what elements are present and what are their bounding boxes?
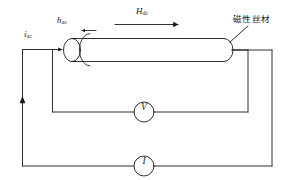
specimen-label: 磁性丝材 (233, 15, 271, 24)
magnetic-wire-cylinder (64, 39, 233, 62)
current-direction-arrowhead (20, 96, 26, 103)
h-dc-subscript: dc (143, 10, 149, 16)
diagram-svg (0, 0, 288, 180)
figure-canvas: hac iac Hdc 磁性丝材 V I (0, 0, 288, 180)
i-ac-subscript: ac (27, 33, 33, 39)
h-ac-label: hac (57, 16, 67, 25)
cylinder-left-face (64, 39, 81, 62)
i-ac-label: iac (24, 30, 32, 39)
h-dc-label: Hdc (136, 7, 148, 16)
voltmeter-label: V (136, 103, 152, 113)
specimen-leader-line (230, 26, 248, 42)
h-ac-circumferential-arc (79, 31, 96, 67)
h-ac-subscript: ac (62, 19, 68, 25)
ammeter-label: I (136, 157, 152, 167)
